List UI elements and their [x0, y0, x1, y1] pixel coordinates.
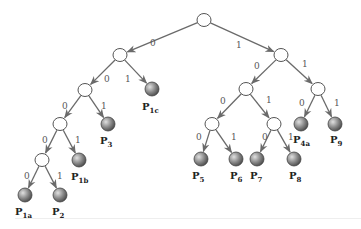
- code-tree-diagram: 01010101010101010101P1cP3P1bP1aP2P4aP9P5…: [0, 0, 361, 229]
- edge-n1-n11: [286, 60, 312, 84]
- internal-node-n0: [113, 49, 127, 62]
- edge-bit-label: 0: [62, 101, 68, 111]
- edge-n0000-P1a: [28, 166, 38, 188]
- edge-bit-label: 1: [57, 171, 63, 181]
- leaf-node-P7: [250, 152, 264, 166]
- leaf-label-P6: P6: [230, 170, 243, 184]
- edge-bit-label: 1: [125, 74, 131, 84]
- internal-node-n1: [274, 49, 288, 62]
- edge-bit-label: 0: [196, 132, 202, 142]
- edge-root-n1: [210, 23, 273, 52]
- leaf-label-P3: P3: [100, 135, 113, 149]
- internal-node-n11: [311, 83, 325, 96]
- leaf-label-P4a: P4a: [293, 134, 310, 148]
- edge-n100-P5: [203, 131, 210, 152]
- leaf-node-P1c: [145, 82, 159, 96]
- leaf-node-P8: [287, 152, 301, 166]
- edge-bit-label: 1: [231, 132, 237, 142]
- edge-bit-label: 1: [302, 59, 308, 69]
- leaf-label-P7: P7: [250, 170, 263, 184]
- edge-bit-label: 1: [334, 98, 340, 108]
- edge-bit-label: 1: [101, 101, 107, 111]
- internal-node-n10: [239, 83, 253, 96]
- edge-bit-label: 0: [24, 171, 30, 181]
- edge-bit-label: 1: [236, 40, 242, 50]
- leaf-node-P6: [229, 152, 243, 166]
- leaf-label-P9: P9: [330, 134, 343, 148]
- leaf-node-P9: [328, 117, 342, 131]
- edge-bit-label: 0: [220, 96, 226, 106]
- internal-node-n0000: [35, 154, 49, 167]
- leaf-label-P5: P5: [192, 170, 205, 184]
- leaf-node-P1b: [72, 153, 86, 167]
- edge-n0000-P2: [45, 166, 56, 188]
- internal-node-n00: [78, 84, 92, 97]
- edge-bit-label: 0: [150, 38, 156, 48]
- edge-bit-label: 0: [254, 61, 260, 71]
- leaf-node-P5: [194, 152, 208, 166]
- internal-node-root: [197, 14, 211, 27]
- internal-node-n100: [205, 118, 219, 131]
- leaf-node-P4a: [294, 117, 308, 131]
- edge-bit-label: 0: [262, 132, 268, 142]
- leaf-node-P2: [53, 188, 67, 202]
- leaf-node-P3: [101, 117, 115, 131]
- edge-bit-label: 1: [75, 135, 81, 145]
- internal-node-n000: [53, 118, 67, 131]
- leaf-label-P1c: P1c: [142, 101, 159, 115]
- edge-n11-P9: [321, 95, 331, 117]
- leaf-label-P1b: P1b: [71, 171, 88, 185]
- leaf-node-P1a: [18, 188, 32, 202]
- leaf-label-P8: P8: [289, 170, 302, 184]
- edge-bit-label: 0: [299, 98, 305, 108]
- edge-bit-label: 0: [104, 74, 110, 84]
- edge-bit-label: 0: [42, 135, 48, 145]
- internal-node-n101: [267, 118, 281, 131]
- edge-n000-P1b: [63, 130, 75, 153]
- edge-root-n0: [127, 23, 197, 52]
- edge-n0-n00: [91, 60, 115, 84]
- edge-bit-label: 1: [266, 95, 272, 105]
- edge-n11-P4a: [304, 95, 314, 117]
- bottom-divider: [15, 218, 361, 219]
- edge-n100-P6: [216, 130, 232, 153]
